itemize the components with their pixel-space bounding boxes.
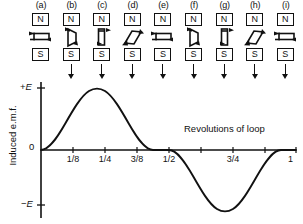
y-label-zero: 0: [29, 141, 34, 152]
coil-loop: [148, 25, 178, 49]
coil-loop: [179, 25, 209, 49]
panel-label: (b): [57, 0, 87, 11]
south-pole: S: [63, 48, 80, 61]
y-label-minus-e: −E: [21, 198, 33, 209]
magnet-panel-f: (f)NS: [179, 0, 209, 84]
x-tick-label-1-8: 1/8: [59, 154, 87, 164]
loop-diagonal: [118, 25, 148, 49]
loop-horizontal-flat: [271, 25, 301, 49]
south-pole: S: [216, 48, 233, 61]
loop-horizontal-flat: [26, 25, 56, 49]
x-tick-label-3-4: 3/4: [219, 154, 247, 164]
figure-root: (a)NS (b)NS (c)NS (d)NS (e)NS: [0, 0, 303, 224]
panel-label: (d): [118, 0, 148, 11]
loop-tilted-steep: [57, 25, 87, 49]
magnet-panel-a: (a)NS: [26, 0, 56, 84]
coil-loop: [240, 25, 270, 49]
x-tick-label-1: 1: [288, 154, 302, 164]
field-direction-arrow-icon: [285, 64, 286, 75]
loop-tilted-steep: [179, 25, 209, 49]
field-direction-arrow-icon: [71, 64, 72, 75]
loop-diagonal: [240, 25, 270, 49]
x-tick-label-1-4: 1/4: [91, 154, 119, 164]
south-pole: S: [185, 48, 202, 61]
coil-loop: [57, 25, 87, 49]
magnet-panel-i: (i)NS: [271, 0, 301, 84]
south-pole: S: [277, 48, 294, 61]
field-direction-arrow-icon: [101, 64, 102, 75]
emf-graph-svg: [0, 78, 303, 224]
coil-loop: [210, 25, 240, 49]
magnet-panel-strip: (a)NS (b)NS (c)NS (d)NS (e)NS: [0, 0, 303, 84]
magnet-panel-d: (d)NS: [118, 0, 148, 84]
south-pole: S: [154, 48, 171, 61]
x-tick-label-1-2: 1/2: [155, 154, 183, 164]
panel-label: (g): [210, 0, 240, 11]
south-pole: S: [93, 48, 110, 61]
panel-label: (i): [271, 0, 301, 11]
field-direction-arrow-icon: [162, 64, 163, 75]
panel-label: (h): [240, 0, 270, 11]
coil-loop: [26, 25, 56, 49]
coil-loop: [271, 25, 301, 49]
magnet-panel-c: (c)NS: [87, 0, 117, 84]
magnet-panel-b: (b)NS: [57, 0, 87, 84]
panel-label: (f): [179, 0, 209, 11]
loop-vertical-edge: [87, 25, 117, 49]
panel-label: (e): [148, 0, 178, 11]
south-pole: S: [32, 48, 49, 61]
magnet-panel-e: (e)NS: [148, 0, 178, 84]
x-axis-title: Revolutions of loop: [184, 123, 265, 134]
y-axis-title: Induced e.m.f.: [7, 86, 18, 186]
coil-loop: [87, 25, 117, 49]
loop-vertical-edge: [210, 25, 240, 49]
field-direction-arrow-icon: [254, 64, 255, 75]
loop-horizontal-flat: [148, 25, 178, 49]
field-direction-arrow-icon: [193, 64, 194, 75]
emf-graph: Induced e.m.f. +E 0 −E 1/8 1/4 3/8 1/2 3…: [0, 78, 303, 224]
panel-label: (a): [26, 0, 56, 11]
y-label-plus-e: +E: [20, 81, 32, 92]
coil-loop: [118, 25, 148, 49]
magnet-panel-g: (g)NS: [210, 0, 240, 84]
south-pole: S: [246, 48, 263, 61]
south-pole: S: [124, 48, 141, 61]
magnet-panel-h: (h)NS: [240, 0, 270, 84]
field-direction-arrow-icon: [132, 64, 133, 75]
field-direction-arrow-icon: [224, 64, 225, 75]
panel-label: (c): [87, 0, 117, 11]
x-tick-label-3-8: 3/8: [123, 154, 151, 164]
